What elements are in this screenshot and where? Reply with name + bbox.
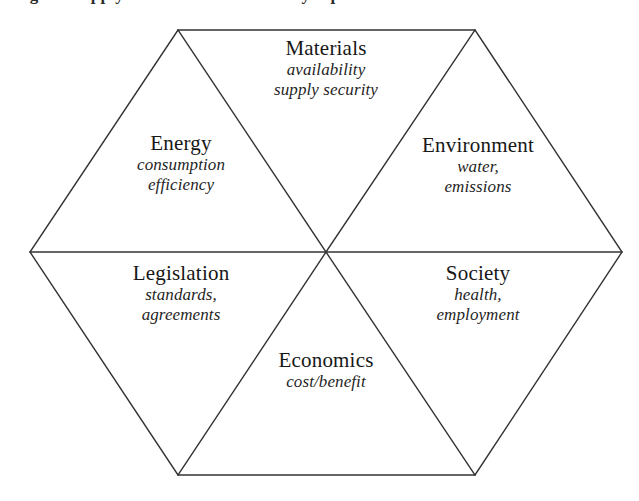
sector-sub2-environment: emissions <box>422 177 534 197</box>
sector-label-legislation: Legislation standards, agreements <box>133 261 230 325</box>
sector-title-economics: Economics <box>278 348 373 372</box>
sector-title-energy: Energy <box>137 131 225 155</box>
sector-sub1-energy: consumption <box>137 155 225 175</box>
sector-title-environment: Environment <box>422 133 534 157</box>
sector-sub2-materials: supply security <box>274 80 378 100</box>
sector-sub2-society: employment <box>436 305 519 325</box>
sector-sub2-legislation: agreements <box>133 305 230 325</box>
sector-sub1-society: health, <box>436 285 519 305</box>
sector-label-energy: Energy consumption efficiency <box>137 131 225 195</box>
sector-title-legislation: Legislation <box>133 261 230 285</box>
sector-label-materials: Materials availability supply security <box>274 36 378 100</box>
sector-label-society: Society health, employment <box>436 261 519 325</box>
hexagon-diagram: Figure: supply-chain and sustainability … <box>0 0 639 501</box>
sector-label-environment: Environment water, emissions <box>422 133 534 197</box>
sector-sub1-environment: water, <box>422 157 534 177</box>
sector-sub1-legislation: standards, <box>133 285 230 305</box>
sector-title-materials: Materials <box>274 36 378 60</box>
sector-title-society: Society <box>436 261 519 285</box>
sector-sub2-energy: efficiency <box>137 175 225 195</box>
sector-label-economics: Economics cost/benefit <box>278 348 373 392</box>
sector-sub1-economics: cost/benefit <box>278 372 373 392</box>
sector-sub1-materials: availability <box>274 60 378 80</box>
